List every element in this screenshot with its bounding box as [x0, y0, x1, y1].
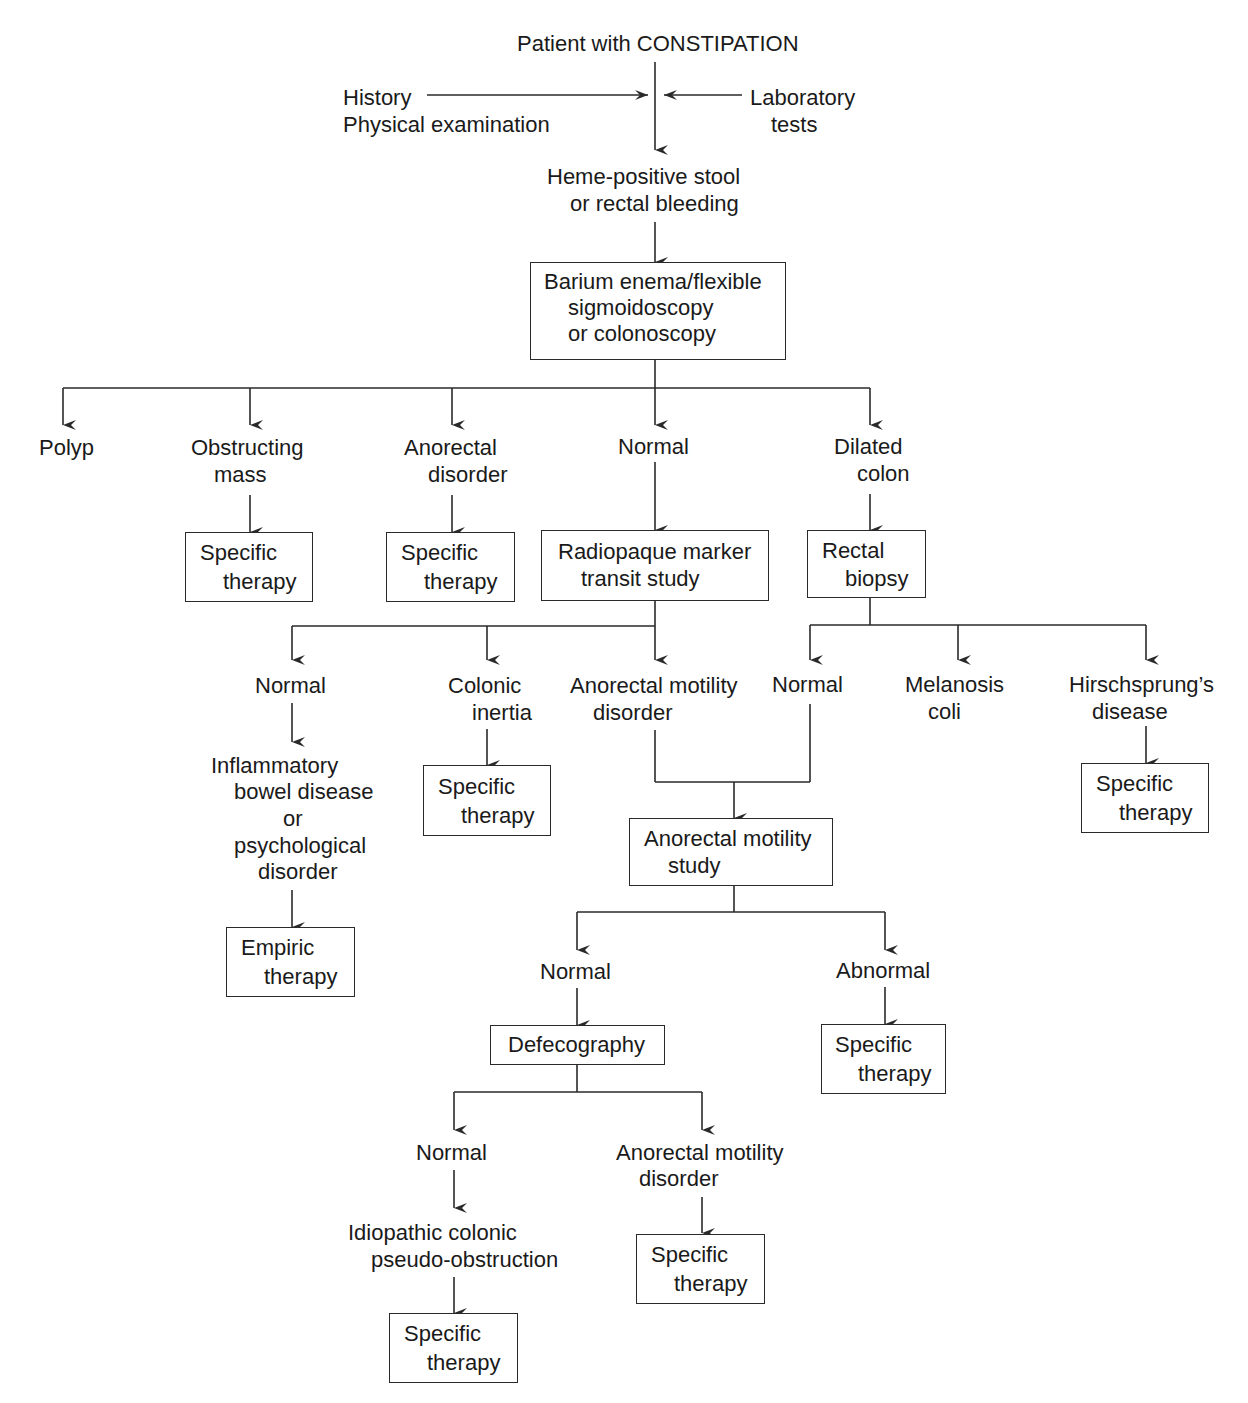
box-barium-line2: sigmoidoscopy: [568, 293, 714, 322]
node-melanosis-coli: coli: [928, 698, 961, 725]
box-text: therapy: [264, 962, 337, 991]
box-text: therapy: [461, 801, 534, 830]
node-anorectal-motility-disorder: disorder: [593, 699, 672, 726]
node-normal-1: Normal: [618, 433, 689, 460]
box-defecography: Defecography: [490, 1025, 665, 1065]
box-text: Specific: [200, 538, 277, 567]
box-barium-line1: Barium enema/flexible: [544, 267, 762, 296]
node-melanosis: Melanosis: [905, 671, 1004, 698]
node-obstructing-mass: mass: [214, 461, 267, 488]
box-text: Specific: [1096, 769, 1173, 798]
box-specific-therapy-obstructing: Specific therapy: [185, 532, 313, 602]
node-hirschsprung-disease: disease: [1092, 698, 1168, 725]
box-barium-line3: or colonoscopy: [568, 319, 716, 348]
flowchart-canvas: Patient with CONSTIPATION History Physic…: [0, 0, 1248, 1403]
node-colonic: Colonic: [448, 672, 521, 699]
node-polyp: Polyp: [39, 434, 94, 461]
node-normal-4: Normal: [540, 958, 611, 985]
box-specific-therapy-abnormal: Specific therapy: [821, 1024, 946, 1094]
node-abnormal: Abnormal: [836, 957, 930, 984]
node-normal-3: Normal: [772, 671, 843, 698]
root-node-constipation: Patient with CONSTIPATION: [517, 30, 799, 57]
node-bowel-disease: bowel disease: [234, 778, 373, 805]
node-pseudo-obstruction: pseudo-obstruction: [371, 1246, 558, 1273]
input-history: History: [343, 84, 411, 111]
node-dilated-colon: colon: [857, 460, 910, 487]
box-specific-therapy-anorectal: Specific therapy: [386, 532, 515, 602]
node-psychological-disorder: disorder: [258, 858, 337, 885]
box-text: therapy: [674, 1269, 747, 1298]
box-text: Anorectal motility: [644, 824, 812, 853]
input-laboratory-tests: tests: [771, 111, 817, 138]
box-specific-therapy-anorectal-motility-2: Specific therapy: [636, 1234, 765, 1304]
box-text: Empiric: [241, 933, 314, 962]
node-anorectal-motility: Anorectal motility: [570, 672, 738, 699]
box-text: Specific: [401, 538, 478, 567]
box-text: therapy: [858, 1059, 931, 1088]
box-text: Specific: [835, 1030, 912, 1059]
box-rectal-biopsy: Rectal biopsy: [807, 530, 926, 598]
node-or: or: [283, 805, 303, 832]
box-text: Radiopaque marker: [558, 537, 751, 566]
box-text: Specific: [438, 772, 515, 801]
box-empiric-therapy: Empiric therapy: [226, 927, 355, 997]
box-text: study: [668, 851, 721, 880]
box-text: therapy: [424, 567, 497, 596]
box-anorectal-motility-study: Anorectal motility study: [629, 818, 833, 886]
node-colonic-inertia: inertia: [472, 699, 532, 726]
node-normal-2: Normal: [255, 672, 326, 699]
box-text: biopsy: [845, 564, 909, 593]
box-specific-therapy-idiopathic: Specific therapy: [389, 1313, 518, 1383]
box-barium-enema: Barium enema/flexible sigmoidoscopy or c…: [530, 262, 786, 360]
node-obstructing: Obstructing: [191, 434, 304, 461]
node-rectal-bleeding: or rectal bleeding: [570, 190, 739, 217]
node-anorectal-motility-2: Anorectal motility: [616, 1139, 784, 1166]
node-normal-5: Normal: [416, 1139, 487, 1166]
box-text: therapy: [223, 567, 296, 596]
node-hirschsprung: Hirschsprung’s: [1069, 671, 1214, 698]
node-psychological: psychological: [234, 832, 366, 859]
box-text: Defecography: [508, 1030, 645, 1059]
node-idiopathic-colonic: Idiopathic colonic: [348, 1219, 517, 1246]
input-physical-examination: Physical examination: [343, 111, 550, 138]
box-text: Specific: [651, 1240, 728, 1269]
node-anorectal-motility-disorder-2: disorder: [639, 1165, 718, 1192]
input-laboratory: Laboratory: [750, 84, 855, 111]
box-text: Specific: [404, 1319, 481, 1348]
box-radiopaque-marker: Radiopaque marker transit study: [541, 530, 769, 601]
box-text: transit study: [581, 564, 700, 593]
box-text: therapy: [1119, 798, 1192, 827]
box-specific-therapy-colonic-inertia: Specific therapy: [423, 765, 551, 836]
node-anorectal: Anorectal: [404, 434, 497, 461]
node-dilated: Dilated: [834, 433, 902, 460]
box-specific-therapy-hirschsprung: Specific therapy: [1081, 763, 1209, 833]
node-heme-positive-stool: Heme-positive stool: [547, 163, 740, 190]
node-inflammatory: Inflammatory: [211, 752, 338, 779]
box-text: therapy: [427, 1348, 500, 1377]
box-text: Rectal: [822, 536, 884, 565]
node-anorectal-disorder: disorder: [428, 461, 507, 488]
